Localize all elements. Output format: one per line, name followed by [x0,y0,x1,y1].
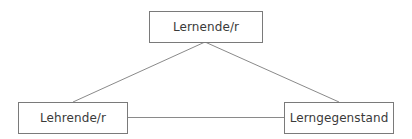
node-label: Lernende/r [173,20,239,34]
node-label: Lehrende/r [40,111,106,125]
node-lehrende: Lehrende/r [18,102,128,134]
didactic-triangle-diagram: Lernende/r Lehrende/r Lerngegenstand [0,0,412,139]
edge-top-left [73,42,205,102]
node-lerngegenstand: Lerngegenstand [284,102,394,134]
node-lernende: Lernende/r [149,11,263,43]
node-label: Lerngegenstand [290,111,389,125]
edge-top-right [205,42,339,102]
